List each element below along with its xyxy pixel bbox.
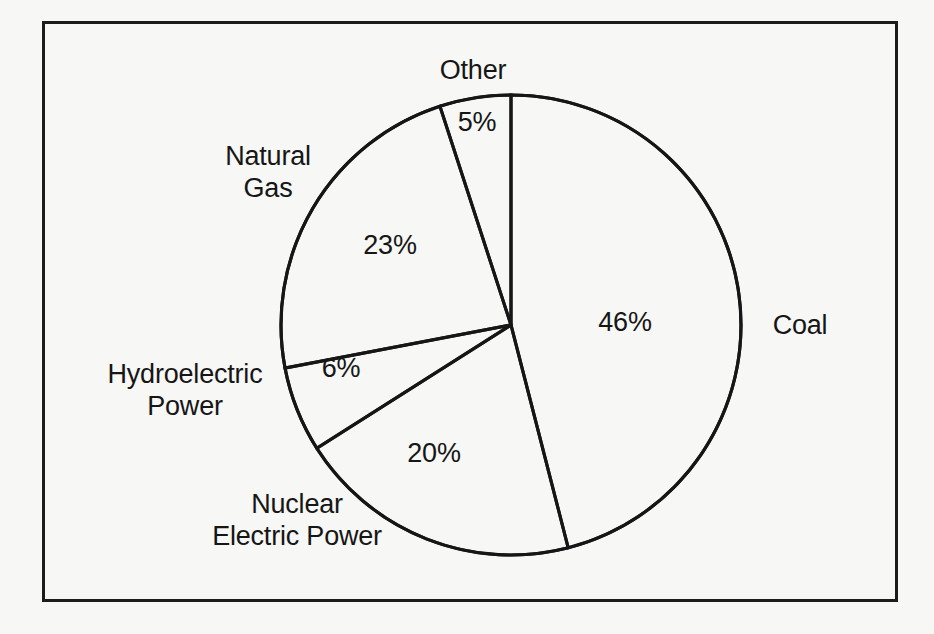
pie-category-label-nuclear-electric-power: Nuclear Electric Power	[212, 488, 382, 552]
pie-category-label-other: Other	[440, 54, 507, 86]
pie-category-label-coal: Coal	[773, 309, 828, 341]
figure-root: 46%Coal20%Nuclear Electric Power6%Hydroe…	[0, 0, 934, 634]
pie-slice-group	[281, 95, 741, 555]
pie-category-label-hydroelectric-power: Hydroelectric Power	[108, 358, 263, 422]
pie-value-label-other: 5%	[458, 107, 497, 137]
pie-category-label-natural-gas: Natural Gas	[225, 140, 311, 204]
pie-value-label-hydroelectric-power: 6%	[322, 353, 361, 383]
pie-value-label-natural-gas: 23%	[363, 230, 416, 260]
pie-value-label-coal: 46%	[598, 307, 651, 337]
pie-value-label-nuclear-electric-power: 20%	[407, 438, 460, 468]
